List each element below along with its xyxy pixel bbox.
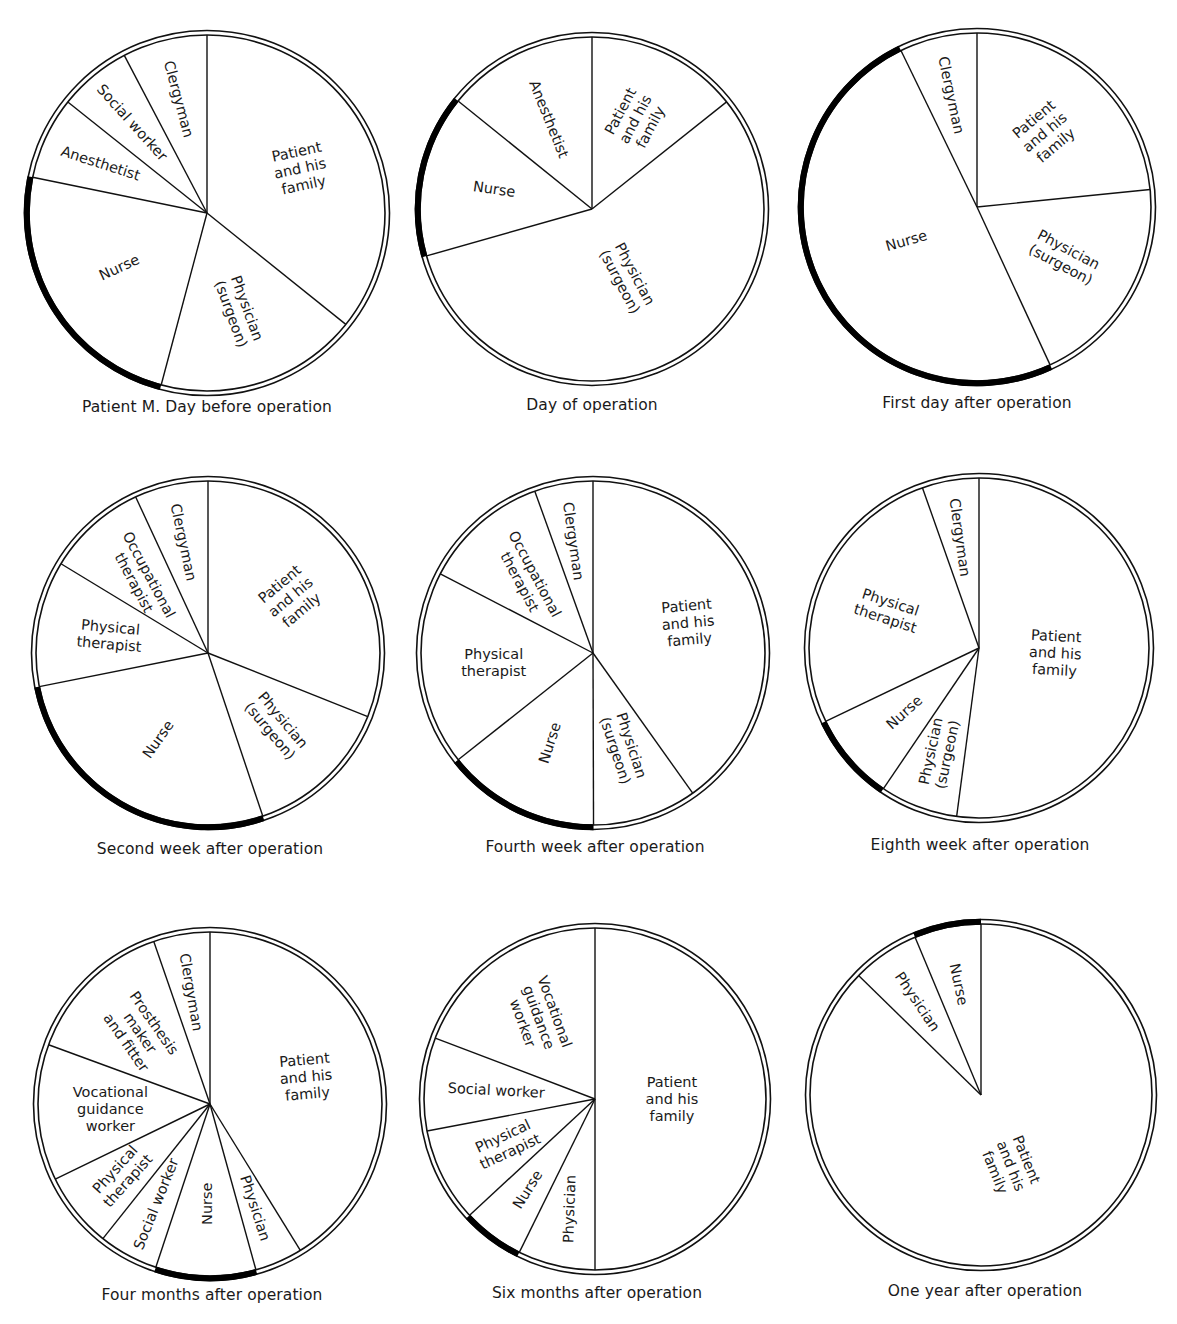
slice-label: Physicaltherapist <box>76 616 144 655</box>
slice-label: Patientand hisfamily <box>660 595 717 649</box>
caption-four-months: Four months after operation <box>102 1286 323 1304</box>
caption-first-day: First day after operation <box>882 394 1072 412</box>
pie-chart-7: Patientand hisfamilyPhysicianNursePhysic… <box>420 924 771 1275</box>
pie-chart-grid: Patientand hisfamilyPhysician(surgeon)Nu… <box>0 0 1177 1324</box>
caption-one-year: One year after operation <box>888 1282 1082 1300</box>
pie-chart-5: Patientand hisfamilyPhysician(surgeon)Nu… <box>805 474 1154 823</box>
pie-chart-4: Patientand hisfamilyPhysician(surgeon)Nu… <box>417 477 770 830</box>
pies-canvas: Patientand hisfamilyPhysician(surgeon)Nu… <box>0 0 1177 1324</box>
slice-label: Physicaltherapist <box>461 646 526 679</box>
pie-chart-1: Patientand hisfamilyPhysician(surgeon)Nu… <box>416 33 769 386</box>
slice-label: Physician <box>560 1175 578 1244</box>
caption-day-before: Patient M. Day before operation <box>82 398 332 416</box>
slice-label: Patientand hisfamily <box>1028 627 1083 680</box>
caption-six-months: Six months after operation <box>492 1284 702 1302</box>
pie-chart-2: Patientand hisfamilyPhysician(surgeon)Nu… <box>799 29 1156 386</box>
slice-label: Patientand hisfamily <box>646 1074 699 1124</box>
caption-day-of: Day of operation <box>526 396 657 414</box>
pie-chart-0: Patientand hisfamilyPhysician(surgeon)Nu… <box>25 31 390 396</box>
caption-fourth-week: Fourth week after operation <box>485 838 704 856</box>
slice-divider <box>593 653 594 825</box>
pie-chart-3: Patientand hisfamilyPhysician(surgeon)Nu… <box>32 477 385 830</box>
caption-second-week: Second week after operation <box>97 840 323 858</box>
pie-chart-6: Patientand hisfamilyPhysicianNurseSocial… <box>34 928 387 1281</box>
slice-label: Patientand hisfamily <box>278 1050 335 1104</box>
slice-label: Nurse <box>199 1182 215 1225</box>
caption-eighth-week: Eighth week after operation <box>871 836 1090 854</box>
pie-chart-8: Patientand hisfamilyPhysicianNurse <box>806 920 1157 1271</box>
